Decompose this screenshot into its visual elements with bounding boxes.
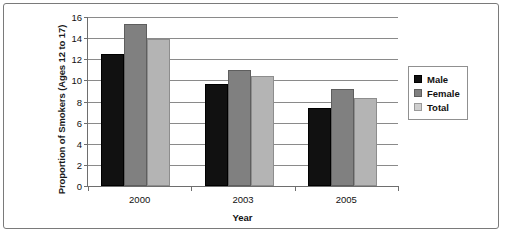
x-axis-title: Year bbox=[87, 212, 398, 223]
x-tick-label-2005: 2005 bbox=[336, 194, 357, 205]
y-tick-label: 2 bbox=[77, 159, 82, 170]
plot-area: 0246810121416 200020032005 bbox=[87, 17, 398, 187]
legend-item-male[interactable]: Male bbox=[414, 72, 460, 86]
legend-swatch-female-icon bbox=[414, 89, 422, 97]
bar-group bbox=[308, 17, 377, 186]
chart-legend: MaleFemaleTotal bbox=[408, 66, 468, 120]
bar-group bbox=[101, 17, 170, 186]
x-tick-mark bbox=[88, 186, 89, 191]
y-tick-label: 16 bbox=[71, 12, 82, 23]
legend-swatch-male-icon bbox=[414, 75, 422, 83]
bar-male-2000 bbox=[101, 54, 124, 186]
y-tick-mark bbox=[84, 38, 88, 39]
y-tick-label: 6 bbox=[77, 117, 82, 128]
legend-label: Total bbox=[427, 102, 449, 113]
plot-wrapper: 0246810121416 200020032005 bbox=[87, 17, 398, 187]
legend-label: Female bbox=[427, 88, 460, 99]
bar-male-2003 bbox=[205, 84, 228, 186]
x-tick-mark bbox=[295, 186, 296, 191]
bar-total-2005 bbox=[354, 98, 377, 186]
y-tick-mark bbox=[84, 80, 88, 81]
y-tick-mark bbox=[84, 144, 88, 145]
y-tick-label: 4 bbox=[77, 138, 82, 149]
x-tick-mark bbox=[191, 186, 192, 191]
y-tick-label: 0 bbox=[77, 181, 82, 192]
x-tick-label-2003: 2003 bbox=[232, 194, 253, 205]
x-tick-mark bbox=[398, 186, 399, 191]
y-tick-label: 10 bbox=[71, 75, 82, 86]
chart-figure-frame: Proportion of Smokers (Ages 12 to 17) 02… bbox=[3, 3, 499, 229]
bar-female-2003 bbox=[228, 70, 251, 186]
y-tick-mark bbox=[84, 102, 88, 103]
y-tick-mark bbox=[84, 59, 88, 60]
y-tick-mark bbox=[84, 165, 88, 166]
y-axis-title: Proportion of Smokers (Ages 12 to 17) bbox=[56, 20, 67, 200]
legend-swatch-total-icon bbox=[414, 103, 422, 111]
y-tick-label: 12 bbox=[71, 54, 82, 65]
legend-item-total[interactable]: Total bbox=[414, 100, 460, 114]
y-tick-label: 14 bbox=[71, 33, 82, 44]
legend-item-female[interactable]: Female bbox=[414, 86, 460, 100]
bar-total-2003 bbox=[251, 76, 274, 186]
y-tick-label: 8 bbox=[77, 96, 82, 107]
x-tick-label-2000: 2000 bbox=[129, 194, 150, 205]
bar-female-2005 bbox=[331, 89, 354, 186]
bar-total-2000 bbox=[147, 39, 170, 186]
y-tick-mark bbox=[84, 123, 88, 124]
legend-label: Male bbox=[427, 74, 448, 85]
bar-female-2000 bbox=[124, 24, 147, 186]
bar-male-2005 bbox=[308, 108, 331, 186]
y-tick-mark bbox=[84, 17, 88, 18]
bar-group bbox=[205, 17, 274, 186]
